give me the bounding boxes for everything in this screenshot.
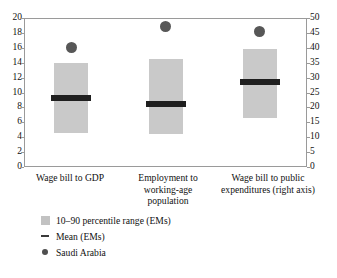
right-tick-label-6: 30 [310, 73, 332, 83]
right-tick-label-0: 0 [310, 162, 332, 172]
left-tick-label-7: 14 [2, 58, 22, 68]
mean-bar-0 [51, 95, 91, 101]
right-tick-label-7: 35 [310, 58, 332, 68]
legend-item-range: 10–90 percentile range (EMs) [34, 212, 264, 228]
left-tick-mark-9 [21, 33, 24, 34]
legend-item-mean: Mean (EMs) [34, 228, 264, 244]
left-tick-mark-7 [21, 63, 24, 64]
right-tick-label-5: 25 [310, 88, 332, 98]
legend-label-saudi: Saudi Arabia [56, 247, 106, 258]
mean-dash-icon [34, 235, 56, 237]
right-tick-mark-0 [307, 167, 310, 168]
right-tick-label-9: 45 [310, 28, 332, 38]
chart-container: 02468101214161820 05101520253035404550 W… [0, 0, 337, 278]
left-tick-label-0: 0 [2, 162, 22, 172]
left-tick-label-4: 8 [2, 102, 22, 112]
left-tick-label-10: 20 [2, 13, 22, 23]
left-tick-label-2: 4 [2, 132, 22, 142]
right-tick-label-1: 5 [310, 147, 332, 157]
right-tick-mark-1 [307, 152, 310, 153]
mean-bar-1 [146, 101, 186, 107]
left-tick-mark-3 [21, 122, 24, 123]
right-tick-mark-4 [307, 107, 310, 108]
right-tick-mark-2 [307, 137, 310, 138]
left-tick-mark-4 [21, 107, 24, 108]
right-tick-label-2: 10 [310, 132, 332, 142]
right-tick-label-4: 20 [310, 102, 332, 112]
left-tick-label-8: 16 [2, 43, 22, 53]
left-tick-mark-2 [21, 137, 24, 138]
range-box-1 [149, 59, 183, 134]
right-tick-mark-6 [307, 78, 310, 79]
right-tick-mark-7 [307, 63, 310, 64]
left-axis: 02468101214161820 [0, 0, 22, 278]
right-tick-mark-9 [307, 33, 310, 34]
right-tick-label-8: 40 [310, 43, 332, 53]
mean-bar-2 [240, 79, 280, 85]
category-label-2-line-0: Wage bill to public [203, 172, 333, 184]
left-tick-label-3: 6 [2, 117, 22, 127]
right-tick-label-10: 50 [310, 13, 332, 23]
left-tick-label-9: 18 [2, 28, 22, 38]
legend-label-range: 10–90 percentile range (EMs) [56, 215, 171, 226]
legend-item-saudi: Saudi Arabia [34, 244, 264, 260]
left-tick-label-1: 2 [2, 147, 22, 157]
left-tick-mark-10 [21, 18, 24, 19]
right-tick-label-3: 15 [310, 117, 332, 127]
right-tick-mark-5 [307, 93, 310, 94]
legend-label-mean: Mean (EMs) [56, 231, 105, 242]
range-swatch-icon [34, 216, 56, 225]
right-tick-mark-8 [307, 48, 310, 49]
category-label-2: Wage bill to public expenditures (right … [203, 172, 333, 195]
left-tick-mark-5 [21, 93, 24, 94]
category-label-1-line-2: population [108, 195, 228, 207]
right-axis: 05101520253035404550 [310, 0, 337, 278]
saudi-dot-icon [34, 249, 56, 255]
left-tick-label-6: 12 [2, 73, 22, 83]
left-tick-mark-8 [21, 48, 24, 49]
left-tick-label-5: 10 [2, 88, 22, 98]
right-tick-mark-3 [307, 122, 310, 123]
left-tick-mark-6 [21, 78, 24, 79]
chart-legend: 10–90 percentile range (EMs) Mean (EMs) … [34, 212, 264, 260]
saudi-arabia-point-0 [66, 42, 77, 53]
left-tick-mark-0 [21, 167, 24, 168]
right-tick-mark-10 [307, 18, 310, 19]
category-label-2-line-1: expenditures (right axis) [203, 184, 333, 196]
left-tick-mark-1 [21, 152, 24, 153]
